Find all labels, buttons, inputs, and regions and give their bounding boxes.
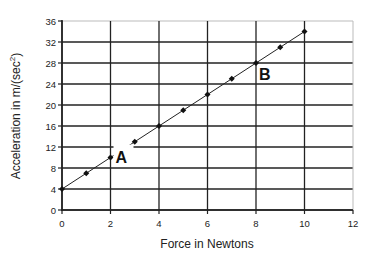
axes: [58, 20, 353, 214]
x-tick-label: 10: [299, 218, 310, 229]
x-tick-label: 8: [253, 218, 258, 229]
x-tick-label: 2: [108, 218, 113, 229]
y-tick-label: 24: [45, 79, 56, 90]
y-tick-label: 12: [45, 142, 56, 153]
x-tick-label: 6: [205, 218, 210, 229]
data-point-marker: [83, 170, 89, 176]
x-tick-label: 12: [348, 218, 359, 229]
data-point-marker: [302, 29, 308, 35]
grid: [62, 21, 353, 210]
chart: 04812162024283236024681012 AB Force in N…: [0, 0, 374, 266]
data-point-marker: [59, 186, 65, 192]
data-point-marker: [205, 92, 211, 98]
y-tick-label: 8: [51, 163, 56, 174]
y-tick-label: 28: [45, 58, 56, 69]
x-tick-label: 0: [59, 218, 64, 229]
y-tick-label: 32: [45, 37, 56, 48]
data-point-marker: [180, 107, 186, 113]
y-tick-label: 0: [51, 205, 56, 216]
y-tick-label: 16: [45, 121, 56, 132]
data-point-marker: [277, 44, 283, 50]
annotations: AB: [114, 65, 275, 166]
point-label-b: B: [259, 66, 271, 83]
x-axis-label: Force in Newtons: [160, 237, 253, 251]
y-tick-label: 36: [45, 16, 56, 27]
y-axis-label: Acceleration in m/(sec2): [8, 53, 23, 180]
data-point-marker: [108, 155, 114, 161]
point-label-a: A: [116, 149, 128, 166]
data-point-marker: [229, 76, 235, 82]
y-tick-label: 4: [51, 184, 56, 195]
x-tick-label: 4: [156, 218, 161, 229]
data-point-marker: [132, 139, 138, 145]
y-tick-label: 20: [45, 100, 56, 111]
data-point-marker: [156, 123, 162, 129]
tick-labels: 04812162024283236024681012: [45, 16, 358, 230]
